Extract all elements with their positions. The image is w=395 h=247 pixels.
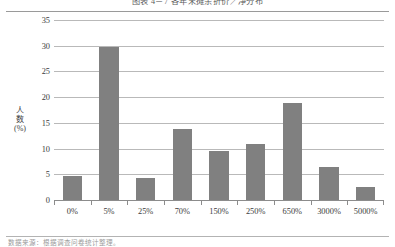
x-axis-tick-labels: 0%5%25%70%150%250%650%3000%5000% xyxy=(54,207,384,221)
bar xyxy=(209,151,228,200)
y-tick-label-15: 15 xyxy=(42,118,50,127)
bar xyxy=(283,103,302,200)
x-tick-label: 250% xyxy=(246,207,266,216)
x-tick-mark xyxy=(127,201,128,205)
x-tick-mark xyxy=(383,201,384,205)
y-tick-label-20: 20 xyxy=(42,93,50,102)
x-tick-label: 5% xyxy=(103,207,114,216)
plot-area xyxy=(54,20,384,200)
x-tick-mark xyxy=(237,201,238,205)
bar xyxy=(246,144,265,200)
x-tick-label: 70% xyxy=(175,207,190,216)
x-tick-mark xyxy=(54,201,55,205)
y-axis-title-char-2: (%) xyxy=(13,124,27,133)
x-tick-label: 0% xyxy=(67,207,78,216)
x-tick-mark xyxy=(311,201,312,205)
bar xyxy=(356,187,375,200)
x-tick-mark xyxy=(347,201,348,205)
y-tick-label-0: 0 xyxy=(46,196,50,205)
bar xyxy=(136,178,155,200)
x-tick-mark xyxy=(201,201,202,205)
header-rule xyxy=(6,11,389,12)
figure-caption: 图表 4－7 各年末摊余折价／净分布 xyxy=(0,0,395,7)
x-tick-label: 5000% xyxy=(354,207,378,216)
bar xyxy=(99,47,118,200)
x-tick-label: 150% xyxy=(209,207,229,216)
y-axis-title-char-1: 数 xyxy=(13,115,27,124)
bar xyxy=(63,176,82,200)
x-axis-ticks xyxy=(54,201,384,206)
bar xyxy=(173,129,192,200)
x-tick-label: 650% xyxy=(283,207,303,216)
y-tick-label-25: 25 xyxy=(42,67,50,76)
figure-footnote: 数据来源：根据调查问卷统计整理。 xyxy=(8,238,388,247)
y-tick-label-35: 35 xyxy=(42,16,50,25)
x-tick-mark xyxy=(91,201,92,205)
x-tick-mark xyxy=(164,201,165,205)
x-tick-label: 25% xyxy=(138,207,153,216)
footer-rule xyxy=(6,236,389,237)
x-tick-label: 3000% xyxy=(317,207,341,216)
y-axis-tick-labels: 05101520253035 xyxy=(28,14,50,214)
plot-container: 人 数 (%) 05101520253035 0%5%25%70%150%250… xyxy=(0,14,395,228)
y-axis-title: 人 数 (%) xyxy=(13,106,27,134)
y-tick-label-30: 30 xyxy=(42,41,50,50)
x-tick-mark xyxy=(274,201,275,205)
bar-series xyxy=(54,20,384,200)
y-tick-label-10: 10 xyxy=(42,144,50,153)
y-tick-label-5: 5 xyxy=(46,170,50,179)
bar xyxy=(319,167,338,200)
y-axis-title-char-0: 人 xyxy=(13,106,27,115)
